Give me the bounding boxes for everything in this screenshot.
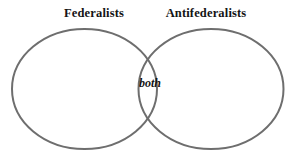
venn-diagram-canvas: Federalists Antifederalists both: [0, 0, 295, 157]
set-label-right: Antifederalists: [140, 6, 272, 21]
intersection-label: both: [120, 76, 180, 90]
